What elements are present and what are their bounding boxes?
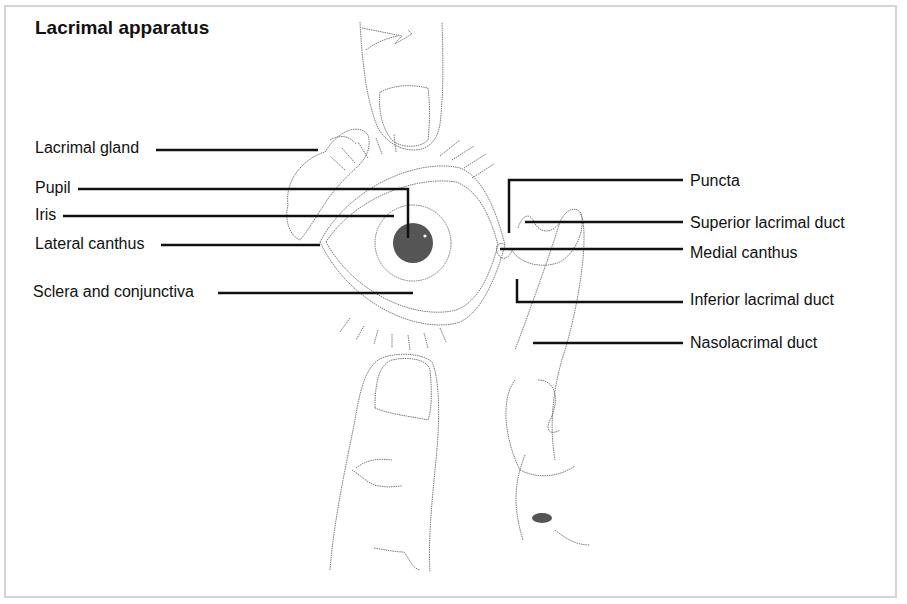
leader-inferior-duct [517, 279, 683, 302]
label-superior-lacrimal-duct: Superior lacrimal duct [690, 214, 845, 232]
nostril-shape [532, 513, 552, 523]
label-medial-canthus: Medial canthus [690, 244, 798, 262]
leader-puncta [509, 180, 683, 233]
top-finger-nail [380, 86, 430, 147]
superior-duct-shape [512, 209, 582, 265]
bottom-finger-outline [330, 354, 439, 572]
label-iris: Iris [35, 206, 56, 224]
bottom-finger-nail [375, 358, 431, 420]
pupil-shape [393, 223, 433, 263]
lacrimal-gland-shape [287, 129, 369, 240]
label-sclera-conjunctiva: Sclera and conjunctiva [33, 283, 194, 301]
label-pupil: Pupil [35, 179, 71, 197]
label-nasolacrimal-duct: Nasolacrimal duct [690, 334, 817, 352]
label-lacrimal-gland: Lacrimal gland [35, 139, 139, 157]
label-lateral-canthus: Lateral canthus [35, 235, 144, 253]
label-puncta: Puncta [690, 172, 740, 190]
label-inferior-lacrimal-duct: Inferior lacrimal duct [690, 291, 834, 309]
